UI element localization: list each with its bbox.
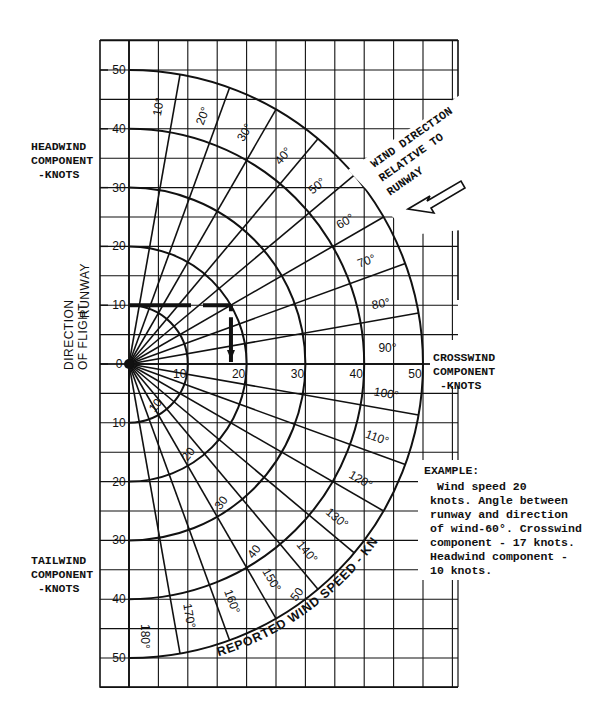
headwind-axis-label: HEADWIND COMPONENT -KNOTS [31, 140, 93, 182]
svg-text:20: 20 [112, 475, 126, 489]
svg-text:30: 30 [291, 367, 305, 381]
angle-label: 80° [371, 295, 392, 312]
angle-label: 20° [193, 105, 212, 127]
svg-text:10: 10 [112, 416, 126, 430]
svg-text:10: 10 [173, 367, 187, 381]
svg-text:20: 20 [112, 239, 126, 253]
svg-text:40: 40 [350, 367, 364, 381]
svg-text:30: 30 [112, 181, 126, 195]
angle-label: 140° [294, 538, 321, 566]
angle-label: 40° [272, 144, 295, 167]
angle-label: 50° [305, 175, 328, 198]
angle-label: 160° [221, 587, 243, 615]
svg-text:10: 10 [112, 298, 126, 312]
svg-text:50: 50 [112, 63, 126, 77]
svg-text:40: 40 [112, 592, 126, 606]
angle-label: 60° [334, 211, 357, 232]
svg-text:0: 0 [116, 357, 123, 371]
wind-component-chart: 10°20°30°40°50°60°70°80°90°100°110°120°1… [0, 0, 612, 721]
angle-label: 100° [373, 384, 400, 402]
angle-label: 10° [150, 96, 167, 116]
angle-label: 170° [180, 602, 198, 629]
example-text: Wind speed 20 knots. Angle between runwa… [430, 480, 582, 578]
svg-text:50: 50 [112, 651, 126, 665]
example-title: EXAMPLE: [424, 464, 479, 478]
svg-text:20: 20 [232, 367, 246, 381]
angle-label: 90° [378, 341, 396, 355]
crosswind-axis-label: CROSSWIND COMPONENT -KNOTS [433, 351, 495, 393]
svg-text:40: 40 [112, 122, 126, 136]
angle-label: 120° [346, 467, 375, 492]
tailwind-axis-label: TAILWIND COMPONENT -KNOTS [31, 554, 93, 596]
svg-text:50: 50 [408, 367, 422, 381]
wind-direction-annotation: WIND DIRECTIONRELATIVE TORUNWAY [348, 95, 465, 235]
angle-label: 70° [356, 251, 378, 270]
angle-label: 130° [323, 505, 351, 532]
angle-label: 180° [138, 624, 152, 649]
angle-label: 30° [234, 121, 255, 144]
angle-label: 110° [364, 427, 391, 448]
svg-text:30: 30 [112, 533, 126, 547]
